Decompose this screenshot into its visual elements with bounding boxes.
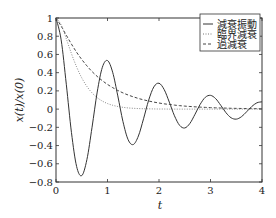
x-tick-label: 1 bbox=[104, 185, 110, 196]
y-tick-label: −0.2 bbox=[29, 122, 53, 133]
x-tick-label: 2 bbox=[156, 185, 162, 196]
y-tick-label: 0.2 bbox=[37, 85, 53, 96]
y-tick-label: 0 bbox=[47, 104, 53, 115]
line-chart: 10.80.60.40.20−0.2−0.4−0.6−0.8 01234 t x… bbox=[0, 0, 276, 218]
y-tick-label: 1 bbox=[47, 13, 53, 24]
legend-label: 過減衰 bbox=[217, 38, 247, 50]
x-tick-label: 3 bbox=[207, 185, 213, 196]
y-tick-label: 0.4 bbox=[37, 67, 53, 78]
y-axis-label: x(t)/x(0) bbox=[13, 78, 26, 123]
y-tick-label: −0.8 bbox=[29, 177, 53, 188]
x-axis-label: t bbox=[158, 199, 163, 212]
y-tick-label: 0.8 bbox=[37, 31, 53, 42]
x-tick-label: 4 bbox=[259, 185, 265, 196]
y-tick-label: 0.6 bbox=[37, 49, 53, 60]
legend: 減衰振動 臨界減衰 過減衰 bbox=[200, 14, 260, 51]
x-tick-label: 0 bbox=[53, 185, 59, 196]
y-tick-label: −0.4 bbox=[29, 140, 53, 151]
y-tick-label: −0.6 bbox=[29, 158, 53, 169]
